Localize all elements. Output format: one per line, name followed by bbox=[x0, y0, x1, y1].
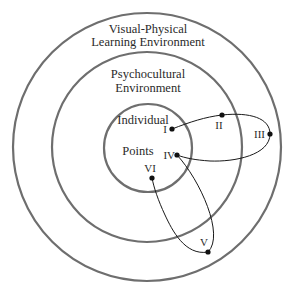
inner-ring-label-individual: Individual bbox=[117, 113, 169, 127]
point-II-label: II bbox=[215, 119, 223, 131]
point-V-label: V bbox=[200, 236, 208, 248]
point-IV-label: IV bbox=[163, 149, 175, 161]
journey-path-IV-V bbox=[177, 155, 214, 252]
inner-ring-label-points: Points bbox=[122, 144, 153, 158]
outer-ring-label-line2: Learning Environment bbox=[91, 35, 205, 49]
point-II-marker bbox=[219, 112, 224, 117]
point-IV-marker bbox=[174, 152, 179, 157]
point-III-label: III bbox=[254, 128, 265, 140]
point-III-marker bbox=[267, 131, 272, 136]
outer-ring-label-line1: Visual-Physical bbox=[109, 22, 188, 36]
point-I-label: I bbox=[163, 123, 167, 135]
point-I-marker bbox=[169, 126, 174, 131]
middle-ring-label-line2: Environment bbox=[115, 81, 181, 95]
point-VI-label: VI bbox=[144, 162, 156, 174]
point-V-marker bbox=[205, 249, 210, 254]
point-VI-marker bbox=[149, 175, 154, 180]
middle-ring-label-line1: Psychocultural bbox=[111, 67, 186, 81]
environment-diagram: Visual-Physical Learning Environment Psy… bbox=[0, 0, 294, 300]
